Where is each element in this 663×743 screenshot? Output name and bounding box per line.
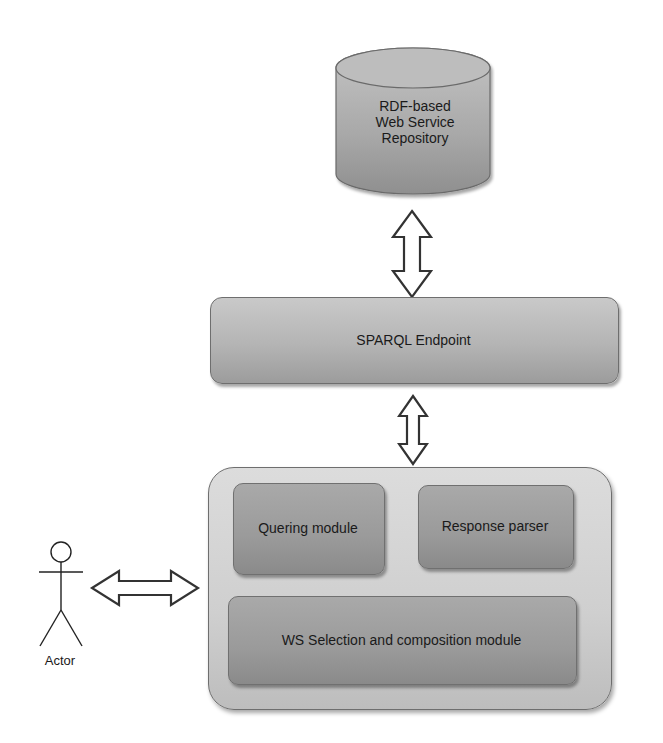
quering-module-label: Quering module [233, 483, 383, 573]
stick-figure-icon [36, 540, 86, 650]
bidirectional-arrow-actor-system [89, 568, 201, 608]
ws-selection-module-label: WS Selection and composition module [228, 596, 575, 683]
bidirectional-arrow-sparql-system [397, 394, 429, 466]
actor-figure [36, 540, 86, 650]
bidirectional-arrow-repository-sparql [391, 209, 433, 299]
repository-label-line-1: RDF-based [379, 98, 451, 114]
repository-label: RDF-based Web Service Repository [340, 95, 490, 149]
double-arrow-vertical-icon [391, 209, 433, 299]
sparql-endpoint-label: SPARQL Endpoint [210, 297, 617, 382]
repository-label-line-3: Repository [382, 130, 449, 146]
response-parser-label: Response parser [418, 485, 572, 567]
double-arrow-vertical-icon [397, 394, 429, 466]
repository-label-line-2: Web Service [375, 114, 454, 130]
double-arrow-horizontal-icon [89, 568, 201, 608]
actor-label: Actor [30, 652, 90, 670]
